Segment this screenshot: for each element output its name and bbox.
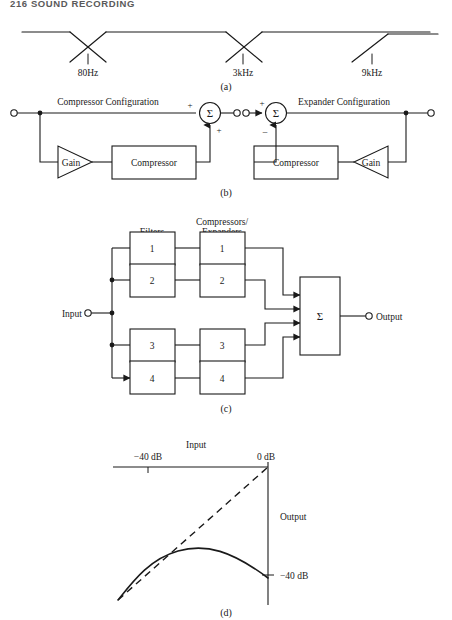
- filter-label-4: 4: [150, 374, 155, 384]
- crossover-9khz-rising: [352, 34, 388, 62]
- expander-sum-sign-feedback: −: [262, 127, 268, 138]
- expander-output-terminal: [428, 110, 434, 116]
- panel-d-transfer-curve: Input −40 dB 0 dB Output −40 dB (d): [0, 420, 452, 620]
- processor-4-to-sum: [245, 337, 300, 378]
- expander-input-terminal: [243, 110, 249, 116]
- expander-sum-symbol: Σ: [273, 107, 279, 119]
- tick-label-input-minus40: −40 dB: [134, 452, 162, 462]
- output-terminal: [366, 313, 372, 319]
- compressor-block-label: Compressor: [131, 158, 178, 168]
- input-bus-junction: [110, 311, 115, 316]
- expander-configuration-title: Expander Configuration: [298, 97, 390, 107]
- panel-letter-b: (b): [220, 187, 232, 199]
- filter-label-1: 1: [150, 244, 155, 254]
- compressor-input-terminal: [11, 110, 17, 116]
- processor-label-3: 3: [220, 341, 225, 351]
- panel-b-compander-configurations: Compressor Configuration + + Σ Gain Comp…: [0, 92, 452, 200]
- input-terminal: [85, 310, 91, 316]
- panel-letter-d: (d): [220, 607, 232, 619]
- processor-label-1: 1: [220, 244, 225, 254]
- filter-label-2: 2: [150, 276, 155, 286]
- compressor-configuration-title: Compressor Configuration: [57, 97, 159, 107]
- panel-c-multiband-filter-bank: Filters Compressors/ Expanders: [0, 205, 452, 420]
- label-crossover-80hz: 80Hz: [78, 68, 99, 78]
- compressor-feedforward-to-sum: [196, 125, 210, 162]
- panel-letter-c: (c): [220, 403, 231, 415]
- compressor-output-terminal: [234, 110, 240, 116]
- expander-sum-sign-top: +: [259, 98, 264, 108]
- axis-label-output: Output: [280, 512, 307, 522]
- processor-label-4: 4: [220, 374, 225, 384]
- filter-label-3: 3: [150, 341, 155, 351]
- panel-a-crossover-diagram: 80Hz 3kHz 9kHz (a): [0, 0, 452, 92]
- expander-gain-label: Gain: [362, 158, 381, 168]
- compressor-sum-symbol: Σ: [207, 107, 213, 119]
- label-crossover-3khz: 3kHz: [233, 68, 254, 78]
- processor-label-2: 2: [220, 276, 225, 286]
- label-crossover-9khz: 9kHz: [362, 68, 383, 78]
- summing-block-symbol: Σ: [317, 310, 323, 322]
- compressor-sum-sign-top: +: [187, 100, 192, 110]
- expander-block-label: Compressor: [273, 158, 320, 168]
- compressor-sum-sign-feedback: +: [216, 125, 221, 135]
- processor-3-to-sum: [245, 323, 300, 345]
- axis-label-input: Input: [186, 440, 206, 450]
- compressor-sidechain-branch: [40, 113, 58, 162]
- curve-compression-characteristic: [118, 548, 268, 600]
- tick-label-output-minus40: −40 dB: [280, 571, 308, 581]
- expander-sidechain-branch: [388, 113, 406, 162]
- processor-1-to-sum: [245, 248, 300, 295]
- heading-compressors-line1: Compressors/: [196, 217, 249, 227]
- tick-label-input-zero: 0 dB: [257, 452, 275, 462]
- input-label: Input: [62, 309, 82, 319]
- compressor-gain-label: Gain: [62, 158, 81, 168]
- figure-page: 216 SOUND RECORDING 80Hz 3kHz 9kHz: [0, 0, 452, 620]
- panel-letter-a: (a): [220, 81, 231, 92]
- output-label: Output: [376, 312, 403, 322]
- curve-unity-reference: [118, 467, 268, 600]
